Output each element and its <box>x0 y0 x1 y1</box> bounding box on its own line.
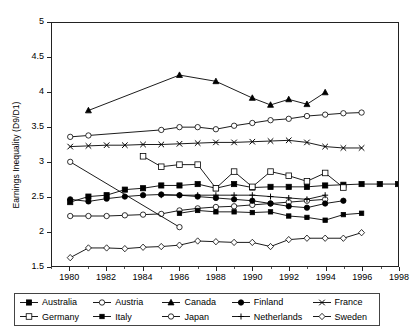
x-tick-mark <box>252 267 253 271</box>
x-tick-mark <box>399 267 400 271</box>
x-tick-label: 1984 <box>123 273 163 282</box>
filled-square-small-icon <box>91 311 113 322</box>
series-canvas <box>52 23 398 266</box>
x-tick-label: 1998 <box>379 273 414 282</box>
x-tick-label: 1986 <box>159 273 199 282</box>
y-tick-label: 5 <box>8 17 44 26</box>
legend-item-finland[interactable]: Finland <box>230 297 311 308</box>
x-tick-mark-minor <box>124 267 125 269</box>
legend-item-canada[interactable]: Canada <box>160 297 229 308</box>
x-tick-mark <box>143 267 144 271</box>
x-tick-label: 1990 <box>232 273 272 282</box>
legend-item-australia[interactable]: Australia <box>18 297 91 308</box>
filled-square-icon <box>18 297 40 308</box>
series-canada <box>85 72 328 113</box>
legend-item-italy[interactable]: Italy <box>91 311 160 322</box>
x-tick-mark-minor <box>344 267 345 269</box>
x-tick-label: 1992 <box>269 273 309 282</box>
legend-item-france[interactable]: France <box>311 297 376 308</box>
legend-label: France <box>335 297 363 307</box>
y-tick-label: 3 <box>8 157 44 166</box>
legend-item-netherlands[interactable]: Netherlands <box>230 311 311 322</box>
legend-label: Canada <box>184 297 216 307</box>
x-tick-mark-minor <box>271 267 272 269</box>
series-sweden <box>67 230 364 261</box>
x-tick-label: 1988 <box>196 273 236 282</box>
legend-label: Finland <box>254 297 284 307</box>
x-tick-mark <box>216 267 217 271</box>
series-france <box>67 138 364 151</box>
plus-icon <box>230 311 252 322</box>
x-tick-mark <box>179 267 180 271</box>
hollow-circle-icon <box>91 297 113 308</box>
y-axis-title: Earnings Inequality (D9/D1) <box>11 55 21 255</box>
legend-item-japan[interactable]: Japan <box>160 311 229 322</box>
y-tick-label: 2 <box>8 227 44 236</box>
x-tick-mark-minor <box>381 267 382 269</box>
x-tick-label: 1996 <box>342 273 382 282</box>
legend-item-germany[interactable]: Germany <box>18 311 91 322</box>
legend-row: GermanyItalyJapanNetherlandsSweden <box>18 310 376 325</box>
x-tick-label: 1994 <box>306 273 346 282</box>
hollow-square-icon <box>18 311 40 322</box>
series-italy <box>177 208 363 222</box>
legend-item-austria[interactable]: Austria <box>91 297 160 308</box>
legend-label: Japan <box>184 312 209 322</box>
x-tick-mark-minor <box>51 267 52 269</box>
y-tick-label: 1.5 <box>8 262 44 271</box>
y-tick-label: 2.5 <box>8 192 44 201</box>
hollow-diamond-icon <box>311 311 333 322</box>
x-tick-label: 1980 <box>49 273 89 282</box>
x-tick-mark-minor <box>234 267 235 269</box>
filled-triangle-icon <box>160 297 182 308</box>
legend-label: Netherlands <box>254 312 303 322</box>
y-tick-label: 3.5 <box>8 122 44 131</box>
x-tick-mark <box>69 267 70 271</box>
x-tick-mark <box>326 267 327 271</box>
y-tick-label: 4.5 <box>8 52 44 61</box>
chart-legend: AustraliaAustriaCanadaFinlandFranceGerma… <box>14 293 380 326</box>
x-tick-mark-minor <box>88 267 89 269</box>
cross-x-icon <box>311 297 333 308</box>
x-tick-mark-minor <box>161 267 162 269</box>
filled-circle-icon <box>230 297 252 308</box>
legend-row: AustraliaAustriaCanadaFinlandFrance <box>18 295 376 310</box>
legend-label: Australia <box>42 297 77 307</box>
x-tick-label: 1982 <box>86 273 126 282</box>
legend-label: Italy <box>115 312 132 322</box>
plot-area <box>51 22 399 267</box>
x-tick-mark <box>362 267 363 271</box>
y-tick-label: 4 <box>8 87 44 96</box>
x-tick-mark-minor <box>307 267 308 269</box>
legend-item-sweden[interactable]: Sweden <box>311 311 376 322</box>
legend-label: Germany <box>42 312 79 322</box>
legend-label: Sweden <box>335 312 368 322</box>
x-tick-mark <box>106 267 107 271</box>
x-tick-mark <box>289 267 290 271</box>
series-japan <box>68 110 365 140</box>
hollow-circle-open-icon <box>160 311 182 322</box>
legend-label: Austria <box>115 297 143 307</box>
x-tick-mark-minor <box>198 267 199 269</box>
